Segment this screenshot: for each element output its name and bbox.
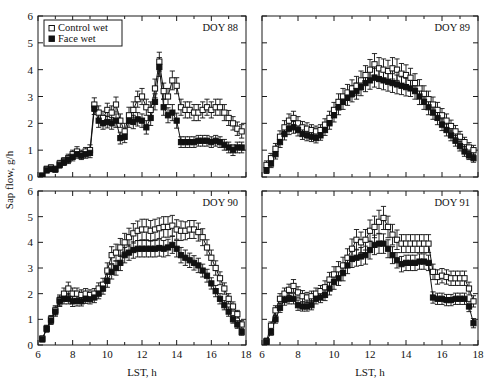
open-square-marker xyxy=(268,323,273,328)
filled-square-marker xyxy=(264,339,269,344)
open-square-marker xyxy=(430,269,435,274)
open-square-marker xyxy=(372,224,377,229)
filled-square-marker xyxy=(381,241,386,246)
filled-square-marker xyxy=(230,317,235,322)
y-axis-title: Sap flow, g/h xyxy=(3,150,15,209)
open-square-marker xyxy=(113,102,118,107)
filled-square-marker xyxy=(235,322,240,327)
sap-flow-figure: 0123456DOY 88Control wetFace wetDOY 8901… xyxy=(0,0,485,381)
filled-square-marker xyxy=(390,253,395,258)
open-square-marker xyxy=(174,83,179,88)
open-square-marker xyxy=(426,241,431,246)
filled-square-marker xyxy=(53,309,58,314)
x-tick-label: 18 xyxy=(473,348,485,360)
x-tick-label: 8 xyxy=(295,348,301,360)
filled-square-marker xyxy=(204,273,209,278)
x-tick-label: 6 xyxy=(35,348,41,360)
x-tick-label: 8 xyxy=(70,348,76,360)
open-square-marker xyxy=(213,265,218,270)
filled-square-marker xyxy=(239,145,244,150)
filled-square-marker xyxy=(336,276,341,281)
open-square-marker xyxy=(230,304,235,309)
filled-square-marker xyxy=(309,303,314,308)
open-square-marker xyxy=(170,78,175,83)
open-square-marker xyxy=(273,146,278,151)
filled-square-marker xyxy=(273,317,278,322)
y-tick-label: 2 xyxy=(28,117,34,129)
y-tick-label: 1 xyxy=(28,313,34,325)
legend: Control wetFace wet xyxy=(44,20,122,46)
y-tick-label: 0 xyxy=(28,339,34,351)
open-square-marker xyxy=(363,237,368,242)
filled-square-marker xyxy=(200,268,205,273)
x-tick-label: 6 xyxy=(259,348,265,360)
filled-square-marker xyxy=(426,260,431,265)
filled-square-marker xyxy=(152,99,157,104)
filled-square-marker xyxy=(196,263,201,268)
filled-square-marker xyxy=(222,303,227,308)
y-tick-label: 6 xyxy=(28,10,34,22)
figure-svg: 0123456DOY 88Control wetFace wetDOY 8901… xyxy=(0,0,485,381)
filled-square-marker xyxy=(40,337,45,342)
open-square-marker xyxy=(222,110,227,115)
open-square-marker xyxy=(471,299,476,304)
y-tick-label: 1 xyxy=(28,144,34,156)
plot-frame xyxy=(262,191,478,345)
open-square-marker xyxy=(113,250,118,255)
open-square-marker xyxy=(226,115,231,120)
open-square-marker xyxy=(367,67,372,72)
filled-square-marker xyxy=(277,305,282,310)
open-square-marker xyxy=(204,245,209,250)
y-tick-label: 5 xyxy=(28,211,34,223)
x-tick-label: 14 xyxy=(401,348,413,360)
open-square-marker xyxy=(209,255,214,260)
filled-square-marker xyxy=(412,89,417,94)
open-square-marker xyxy=(165,94,170,99)
filled-square-marker xyxy=(209,281,214,286)
filled-square-marker xyxy=(239,330,244,335)
x-tick-label: 16 xyxy=(206,348,218,360)
open-square-marker xyxy=(291,115,296,120)
filled-square-marker xyxy=(448,133,453,138)
open-square-marker xyxy=(118,245,123,250)
filled-square-marker xyxy=(118,260,123,265)
open-square-marker xyxy=(109,110,114,115)
filled-square-marker xyxy=(367,247,372,252)
filled-square-marker xyxy=(421,99,426,104)
filled-square-marker xyxy=(331,113,336,118)
filled-square-marker xyxy=(217,296,222,301)
filled-square-marker xyxy=(161,105,166,110)
open-square-marker xyxy=(200,235,205,240)
filled-square-marker xyxy=(471,156,476,161)
open-square-marker xyxy=(235,312,240,317)
filled-square-marker xyxy=(322,127,327,132)
filled-square-marker xyxy=(100,286,105,291)
open-square-marker xyxy=(291,283,296,288)
open-square-marker xyxy=(226,296,231,301)
open-square-marker xyxy=(466,286,471,291)
open-square-marker xyxy=(131,107,136,112)
legend-face-label: Face wet xyxy=(58,33,96,44)
legend-open-square-icon xyxy=(49,26,54,31)
open-square-marker xyxy=(390,232,395,237)
filled-square-marker xyxy=(157,64,162,69)
open-square-marker xyxy=(363,72,368,77)
filled-square-marker xyxy=(268,330,273,335)
panel-doy-88: 0123456DOY 88Control wetFace wet xyxy=(28,10,247,183)
filled-square-marker xyxy=(322,292,327,297)
filled-square-marker xyxy=(144,125,149,130)
filled-square-marker xyxy=(139,118,144,123)
filled-square-marker xyxy=(87,150,92,155)
filled-square-marker xyxy=(471,321,476,326)
filled-square-marker xyxy=(439,122,444,127)
y-tick-label: 5 xyxy=(28,37,34,49)
filled-square-marker xyxy=(430,110,435,115)
open-square-marker xyxy=(126,113,131,118)
filled-square-marker xyxy=(148,115,153,120)
open-square-marker xyxy=(349,246,354,251)
open-square-marker xyxy=(230,121,235,126)
x-tick-label: 12 xyxy=(137,348,148,360)
y-tick-label: 3 xyxy=(28,91,34,103)
open-square-marker xyxy=(122,129,127,134)
open-square-marker xyxy=(471,148,476,153)
